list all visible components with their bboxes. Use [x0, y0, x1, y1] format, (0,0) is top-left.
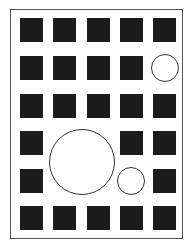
black-square [153, 169, 176, 193]
black-square [87, 206, 110, 230]
black-square [20, 56, 43, 80]
black-square [53, 94, 76, 118]
black-square [53, 56, 76, 80]
medium-circle [117, 167, 145, 195]
black-square [20, 131, 43, 155]
black-square [20, 169, 43, 193]
black-square [153, 18, 176, 42]
black-square [87, 18, 110, 42]
black-square [87, 56, 110, 80]
black-square [120, 131, 143, 155]
large-circle [49, 129, 115, 195]
black-square [120, 206, 143, 230]
black-square [120, 18, 143, 42]
black-square [20, 206, 43, 230]
small-circle [151, 54, 179, 82]
figure-frame [10, 9, 183, 239]
black-square [153, 131, 176, 155]
black-square [120, 56, 143, 80]
black-square [20, 18, 43, 42]
black-square [153, 206, 176, 230]
black-square [120, 94, 143, 118]
black-square [53, 18, 76, 42]
black-square [20, 94, 43, 118]
black-square [87, 94, 110, 118]
black-square [153, 94, 176, 118]
black-square [53, 206, 76, 230]
